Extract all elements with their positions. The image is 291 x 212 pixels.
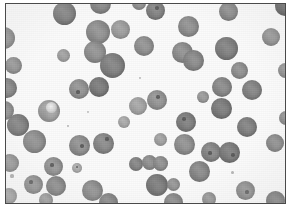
cell: [215, 37, 238, 60]
nucleus-dot: [76, 166, 79, 169]
cell: [90, 3, 111, 14]
cell: [154, 133, 167, 146]
cell-texture: [5, 27, 15, 49]
cell-texture: [132, 3, 146, 10]
micrograph-frame: [5, 3, 286, 204]
cell: [176, 112, 196, 132]
cell: [100, 53, 125, 78]
cell-texture: [154, 133, 167, 146]
cell-texture: [24, 175, 43, 194]
cell: [219, 142, 240, 163]
cell-texture: [69, 135, 90, 156]
cell: [278, 63, 287, 78]
cell: [279, 111, 286, 125]
cell: [5, 27, 15, 49]
cell-texture: [242, 80, 262, 100]
cell-texture: [39, 193, 53, 204]
cell-texture: [219, 3, 238, 21]
debris-speck: [87, 111, 89, 113]
micrograph-figure: [0, 0, 291, 212]
cell: [212, 77, 232, 97]
cell-texture: [237, 117, 257, 137]
cell-texture: [178, 16, 199, 37]
cell: [237, 117, 257, 137]
cell-texture: [215, 37, 238, 60]
nucleus-dot: [245, 190, 248, 193]
cell: [202, 192, 216, 204]
cell: [266, 134, 284, 152]
cell: [174, 134, 195, 155]
cell-texture: [219, 142, 240, 163]
cell: [146, 174, 168, 196]
cell-texture: [153, 156, 168, 171]
cell: [242, 80, 262, 100]
cell-texture: [53, 3, 76, 25]
nucleus-dot: [155, 6, 159, 10]
cell-texture: [57, 49, 70, 62]
debris-speck: [231, 171, 234, 174]
cell: [275, 3, 286, 16]
cell-texture: [100, 53, 125, 78]
cell-texture: [86, 20, 110, 44]
cell: [86, 20, 110, 44]
nucleus-dot: [208, 151, 211, 154]
cell: [262, 28, 280, 46]
cell-texture: [118, 116, 130, 128]
nucleus-dot: [76, 90, 79, 93]
cell: [24, 175, 43, 194]
nucleus-dot: [231, 153, 235, 157]
cell: [69, 79, 89, 99]
cell: [236, 181, 255, 200]
cell: [231, 62, 248, 79]
cell-highlight: [46, 102, 57, 113]
cell: [178, 16, 199, 37]
cell-texture: [174, 134, 195, 155]
cell-texture: [164, 193, 183, 205]
cell: [129, 157, 143, 171]
cell: [44, 157, 63, 176]
cell: [5, 78, 17, 98]
nucleus-dot: [29, 180, 32, 183]
cell: [134, 36, 154, 56]
cell-texture: [197, 91, 209, 103]
cell-texture: [69, 79, 89, 99]
cell: [69, 135, 90, 156]
cell-texture: [212, 77, 232, 97]
cell: [111, 20, 130, 39]
cell: [5, 57, 22, 74]
nucleus-dot: [105, 137, 108, 140]
cell: [146, 3, 165, 20]
cell: [39, 193, 53, 204]
nucleus-dot: [50, 163, 53, 166]
cell: [219, 3, 238, 21]
cell-texture: [183, 50, 204, 71]
cell: [5, 154, 19, 172]
cell-texture: [279, 111, 286, 125]
cell-texture: [129, 97, 147, 115]
cell-texture: [231, 62, 248, 79]
cell: [129, 97, 147, 115]
cell-texture: [262, 28, 280, 46]
cell: [5, 188, 17, 204]
cell-texture: [5, 57, 22, 74]
cell: [189, 161, 210, 182]
debris-speck: [10, 174, 13, 177]
cell-texture: [5, 78, 17, 98]
cell-texture: [23, 130, 46, 153]
nucleus-dot: [182, 117, 186, 121]
cell: [211, 98, 232, 119]
cell: [23, 130, 46, 153]
cell-texture: [266, 191, 285, 205]
cell-texture: [202, 192, 216, 204]
cell-texture: [189, 161, 210, 182]
cell: [266, 191, 285, 205]
cell: [93, 133, 114, 154]
cell-texture: [5, 188, 17, 204]
cell-texture: [176, 112, 196, 132]
cell-texture: [93, 133, 114, 154]
cell-texture: [146, 174, 168, 196]
cell-texture: [275, 3, 286, 16]
cell: [153, 156, 168, 171]
cell-texture: [129, 157, 143, 171]
debris-speck: [67, 125, 70, 128]
